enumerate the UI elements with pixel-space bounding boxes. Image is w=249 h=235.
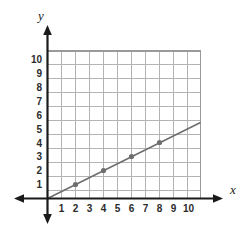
y-tick-label: 7 (36, 96, 42, 107)
y-tick-label: 9 (36, 68, 42, 79)
plot-line (48, 123, 201, 199)
data-point (157, 140, 162, 145)
y-tick-label: 6 (36, 110, 42, 121)
graph-svg: y x 1 2 3 4 5 6 7 8 9 10 1 2 3 4 5 6 7 8… (0, 0, 249, 235)
x-tick-label: 10 (183, 203, 195, 214)
x-axis-arrow-right (213, 194, 223, 203)
x-tick-label: 4 (101, 203, 107, 214)
x-tick-label: 1 (59, 203, 65, 214)
x-axis-label: x (229, 182, 236, 197)
x-tick-label: 3 (87, 203, 93, 214)
x-axis-arrow-left (14, 194, 24, 203)
y-tick-label: 10 (31, 54, 43, 65)
x-tick-label: 8 (157, 203, 163, 214)
x-tick-label: 2 (73, 203, 79, 214)
axis-arrowheads (14, 25, 223, 224)
coordinate-plane-figure: y x 1 2 3 4 5 6 7 8 9 10 1 2 3 4 5 6 7 8… (0, 0, 249, 235)
x-tick-labels: 1 2 3 4 5 6 7 8 9 10 (59, 203, 195, 214)
data-point (73, 182, 78, 187)
y-axis-arrow-down (43, 214, 52, 224)
y-tick-label: 2 (36, 165, 42, 176)
x-tick-label: 9 (171, 203, 177, 214)
y-axis-arrow-up (43, 25, 52, 35)
y-tick-labels: 1 2 3 4 5 6 7 8 9 10 (31, 54, 43, 190)
data-point (101, 168, 106, 173)
x-tick-label: 7 (143, 203, 149, 214)
x-tick-label: 5 (115, 203, 121, 214)
y-tick-label: 8 (36, 82, 42, 93)
y-axis-label: y (36, 8, 44, 23)
x-tick-label: 6 (129, 203, 135, 214)
y-tick-label: 5 (36, 124, 42, 135)
y-tick-label: 1 (36, 179, 42, 190)
grid-lines (48, 52, 201, 199)
data-point (129, 154, 134, 159)
y-tick-label: 3 (36, 151, 42, 162)
y-tick-label: 4 (36, 138, 42, 149)
axes (22, 33, 215, 216)
